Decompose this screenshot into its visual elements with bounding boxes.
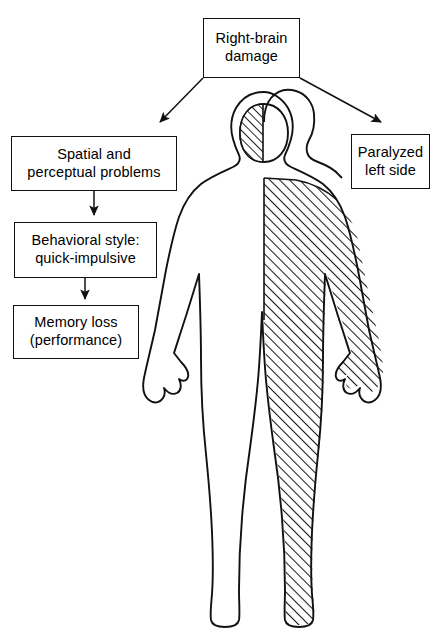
box-paralyzed-left-side[interactable]: Paralyzed left side	[351, 134, 430, 189]
box-memory-loss[interactable]: Memory loss (performance)	[13, 305, 139, 359]
box-spatial-perceptual-problems[interactable]: Spatial and perceptual problems	[11, 136, 177, 191]
box-title-line2: damage	[225, 48, 278, 66]
arrow-to-paralyzed	[300, 78, 381, 122]
box-spatial-line1: Spatial and	[57, 146, 131, 164]
brain-hatched-right-hemisphere	[240, 104, 263, 162]
box-behavioral-style[interactable]: Behavioral style: quick-impulsive	[14, 222, 157, 278]
box-behavior-line2: quick-impulsive	[35, 250, 136, 268]
body-silhouette	[143, 92, 381, 627]
box-title-line1: Right-brain	[215, 30, 287, 48]
box-memory-line2: (performance)	[30, 332, 122, 350]
figure-canvas: Right-brain damage Spatial and perceptua…	[0, 0, 437, 644]
body-outline-figure	[143, 90, 383, 627]
body-outline	[264, 90, 342, 178]
box-spatial-line2: perceptual problems	[27, 164, 160, 182]
box-paralyzed-line1: Paralyzed	[358, 144, 423, 162]
box-right-brain-damage[interactable]: Right-brain damage	[203, 18, 300, 78]
box-behavior-line1: Behavioral style:	[31, 232, 139, 250]
box-paralyzed-line2: left side	[365, 162, 416, 180]
box-memory-line1: Memory loss	[34, 314, 117, 332]
arrow-to-spatial	[160, 78, 203, 122]
